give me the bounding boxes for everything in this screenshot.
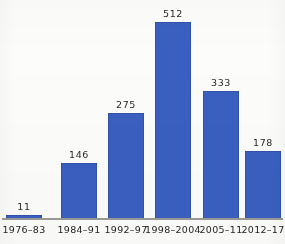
bar-group: 178 [245,0,281,219]
bar-value-label: 333 [191,77,251,88]
bar-value-label: 11 [0,201,54,212]
bar-group: 333 [203,0,239,219]
plot-area: 11 146 275 512 333 178 [0,0,285,219]
bar-value-label: 275 [96,99,156,110]
bar[interactable] [108,113,144,219]
bar[interactable] [61,163,97,219]
x-axis-line [2,218,283,220]
x-axis-tick-label: 2012–17 [232,224,285,235]
bar[interactable] [245,151,281,219]
bar[interactable] [203,91,239,219]
bar-chart: 11 146 275 512 333 178 1976–83 1984–91 1… [0,0,285,244]
x-axis-tick-labels: 1976–83 1984–91 1992–97 1998–2004 2005–1… [0,221,285,244]
bar-group: 11 [6,0,42,219]
bar-group: 146 [61,0,97,219]
bar-group: 275 [108,0,144,219]
bar[interactable] [155,22,191,219]
bar-group: 512 [155,0,191,219]
x-axis-tick-label: 1976–83 [0,224,55,235]
bar-value-label: 178 [233,137,285,148]
bar-value-label: 146 [49,149,109,160]
bar-value-label: 512 [143,8,203,19]
